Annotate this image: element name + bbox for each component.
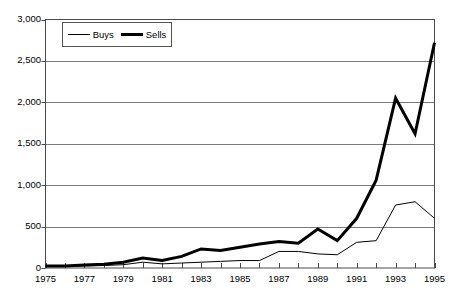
legend-label-sells: Sells: [146, 30, 167, 40]
x-tick-label: 1987: [268, 274, 289, 284]
x-tick-label: 1979: [113, 274, 134, 284]
legend: Buys Sells: [62, 22, 172, 47]
legend-label-buys: Buys: [93, 30, 114, 40]
x-tick-label: 1975: [35, 274, 56, 284]
x-tick-label: 1991: [346, 274, 367, 284]
legend-item-buys: Buys: [68, 30, 114, 40]
thick-line-swatch: [121, 33, 143, 36]
thin-line-swatch: [68, 34, 90, 35]
line-chart: 05001,0001,5002,0002,5003,000 1975197719…: [0, 0, 461, 301]
legend-item-sells: Sells: [121, 30, 167, 40]
x-tick-label: 1981: [152, 274, 173, 284]
x-tick-label: 1977: [74, 274, 95, 284]
x-tick-label: 1989: [307, 274, 328, 284]
x-tick-label: 1983: [191, 274, 212, 284]
x-tick-label: 1995: [424, 274, 445, 284]
x-tick-label: 1993: [385, 274, 406, 284]
x-tick-label: 1985: [229, 274, 250, 284]
